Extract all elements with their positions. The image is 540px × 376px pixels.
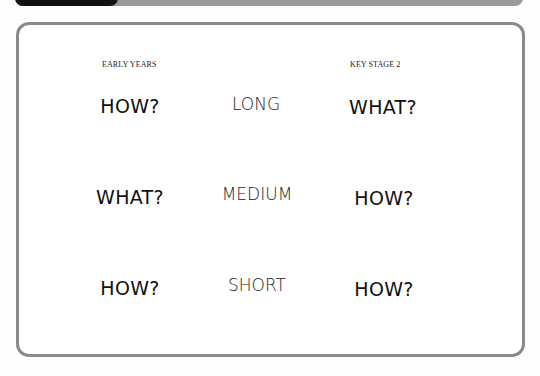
row3-middle-word: SHORT — [197, 275, 317, 295]
row3-right-word: HOW? — [324, 278, 444, 300]
key-stage-2-label: KEY STAGE 2 — [350, 60, 400, 69]
row1-left-word: HOW? — [70, 95, 190, 117]
row2-middle-word: MEDIUM — [197, 184, 317, 204]
row2-left-word: WHAT? — [70, 186, 190, 208]
top-banner-tab — [15, 0, 118, 6]
row1-middle-word: LONG — [196, 94, 316, 114]
row2-right-word: HOW? — [324, 187, 444, 209]
row3-left-word: HOW? — [70, 277, 190, 299]
row1-right-word: WHAT? — [323, 96, 443, 118]
early-years-label: EARLY YEARS — [102, 60, 157, 69]
